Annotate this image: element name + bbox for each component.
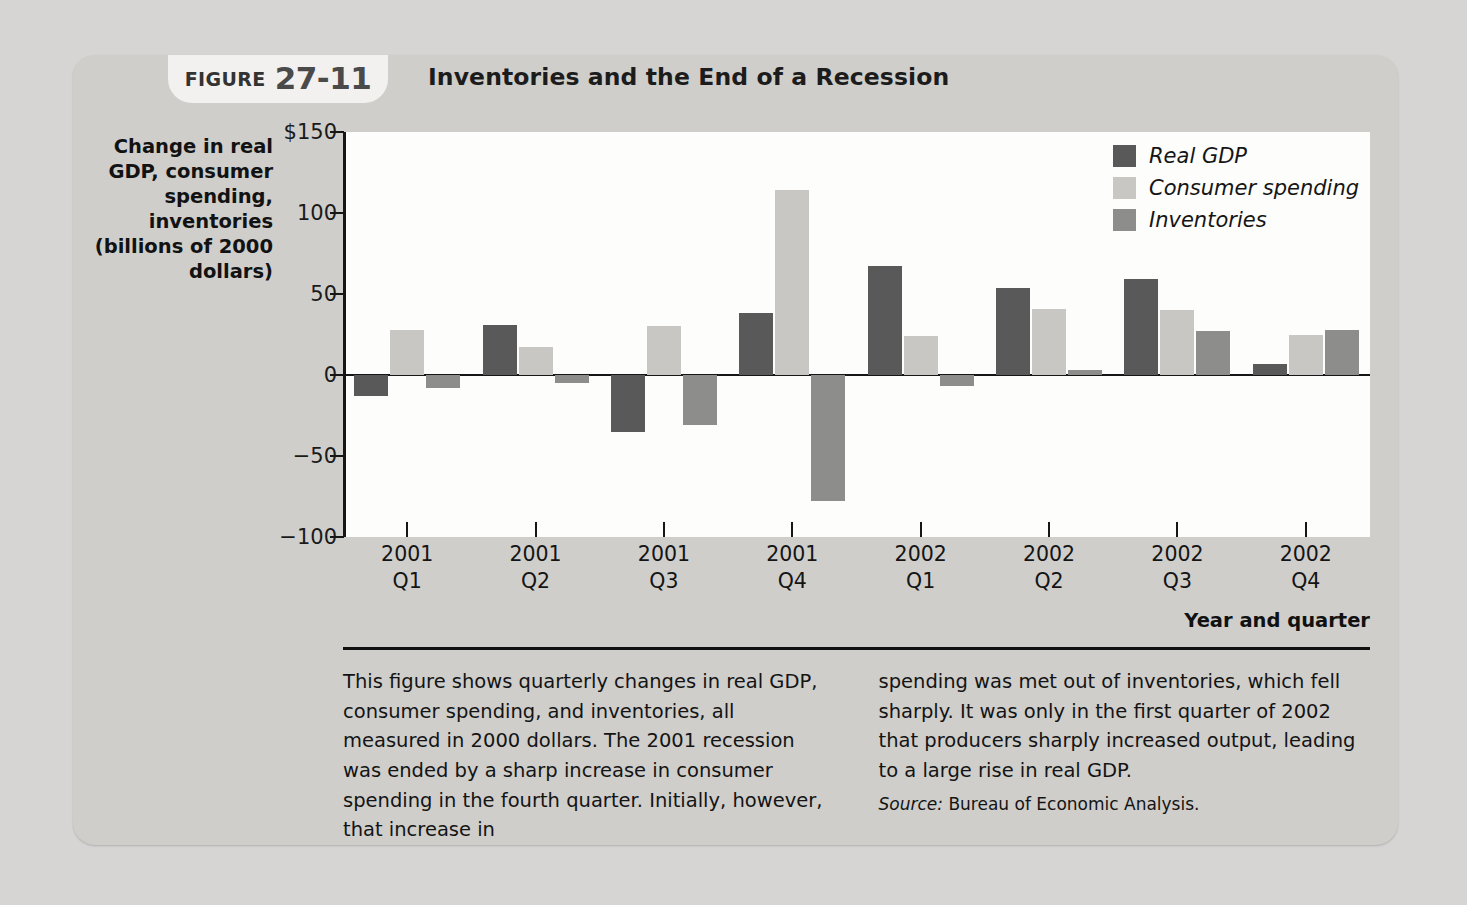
caption-column-left: This figure shows quarterly changes in r… (343, 667, 835, 847)
x-axis-label: 2002Q1 (866, 541, 976, 595)
bar-consumer-spending-2001-q3 (647, 326, 681, 375)
x-axis-tick-labels: 2001Q12001Q22001Q32001Q42002Q12002Q22002… (343, 541, 1370, 603)
legend-swatch-icon (1113, 209, 1136, 231)
bar-real-gdp-2002-q2 (996, 288, 1030, 375)
bar-real-gdp-2001-q1 (354, 375, 388, 396)
chart-legend: Real GDPConsumer spendingInventories (1113, 144, 1359, 232)
bar-inventories-2002-q3 (1196, 331, 1230, 375)
x-axis-label-quarter: Q4 (1251, 568, 1361, 595)
bar-consumer-spending-2001-q2 (519, 347, 553, 375)
x-axis-tick (1048, 522, 1050, 537)
x-axis-label: 2002Q3 (1122, 541, 1232, 595)
bar-real-gdp-2001-q2 (483, 325, 517, 375)
legend-label: Inventories (1149, 208, 1267, 232)
x-axis-label-quarter: Q3 (1122, 568, 1232, 595)
x-axis-label-quarter: Q3 (609, 568, 719, 595)
x-axis-label-year: 2002 (866, 541, 976, 568)
y-axis-tick (330, 374, 344, 376)
y-axis-tick-labels: −100−50050100$150 (267, 132, 337, 537)
x-axis-tick (1176, 522, 1178, 537)
bar-inventories-2002-q4 (1325, 330, 1359, 375)
caption-divider (343, 647, 1370, 650)
plot-area: Real GDPConsumer spendingInventories (343, 132, 1370, 537)
figure-title: Inventories and the End of a Recession (428, 63, 949, 91)
x-axis-label-quarter: Q1 (352, 568, 462, 595)
bar-consumer-spending-2001-q4 (775, 190, 809, 375)
x-axis-title: Year and quarter (1184, 609, 1370, 632)
x-axis-label-year: 2001 (352, 541, 462, 568)
x-axis-tick (791, 522, 793, 537)
x-axis-label: 2002Q4 (1251, 541, 1361, 595)
caption-column-right: spending was met out of inventories, whi… (879, 667, 1371, 847)
x-axis-tick (663, 522, 665, 537)
legend-item-consumer-spending: Consumer spending (1113, 176, 1359, 200)
legend-label: Consumer spending (1149, 176, 1359, 200)
x-axis-label: 2001Q3 (609, 541, 719, 595)
x-axis-label-year: 2002 (994, 541, 1104, 568)
x-axis-tick (920, 522, 922, 537)
x-axis-label-year: 2001 (609, 541, 719, 568)
bar-consumer-spending-2001-q1 (390, 330, 424, 375)
x-axis-label-year: 2002 (1251, 541, 1361, 568)
source-text: Bureau of Economic Analysis. (948, 794, 1199, 814)
bar-consumer-spending-2002-q4 (1289, 335, 1323, 376)
bar-real-gdp-2001-q4 (739, 313, 773, 375)
x-axis-label: 2001Q1 (352, 541, 462, 595)
caption-block: This figure shows quarterly changes in r… (343, 647, 1370, 847)
y-axis-title: Change in real GDP, consumer spending, i… (91, 135, 273, 285)
x-axis-label-quarter: Q1 (866, 568, 976, 595)
source-line: Source: Bureau of Economic Analysis. (879, 792, 1371, 818)
figure-card: Figure 27-11 Inventories and the End of … (73, 55, 1398, 845)
x-axis-label-year: 2002 (1122, 541, 1232, 568)
y-axis-line (343, 132, 346, 537)
bar-inventories-2002-q1 (940, 375, 974, 386)
y-axis-tick (330, 536, 344, 538)
figure-header: Figure 27-11 Inventories and the End of … (73, 55, 1398, 117)
bar-real-gdp-2002-q4 (1253, 364, 1287, 375)
figure-number-tab: Figure 27-11 (168, 55, 388, 103)
figure-tab-number: 27-11 (275, 60, 372, 96)
x-axis-label-quarter: Q2 (481, 568, 591, 595)
y-axis-tick (330, 455, 344, 457)
legend-item-inventories: Inventories (1113, 208, 1359, 232)
y-axis-tick (330, 131, 344, 133)
caption-text-left: This figure shows quarterly changes in r… (343, 667, 835, 845)
bar-real-gdp-2001-q3 (611, 375, 645, 432)
x-axis-label-quarter: Q2 (994, 568, 1104, 595)
x-axis-tick (1305, 522, 1307, 537)
legend-item-real-gdp: Real GDP (1113, 144, 1359, 168)
bar-consumer-spending-2002-q3 (1160, 310, 1194, 375)
x-axis-label: 2001Q2 (481, 541, 591, 595)
bar-inventories-2001-q3 (683, 375, 717, 425)
page-background: Figure 27-11 Inventories and the End of … (0, 0, 1467, 905)
caption-columns: This figure shows quarterly changes in r… (343, 667, 1370, 847)
bar-consumer-spending-2002-q2 (1032, 309, 1066, 375)
y-axis-tick (330, 293, 344, 295)
y-axis-tick-label: −100 (279, 525, 337, 549)
bar-inventories-2001-q1 (426, 375, 460, 388)
x-axis-label-year: 2001 (737, 541, 847, 568)
x-axis-label: 2002Q2 (994, 541, 1104, 595)
bar-inventories-2001-q4 (811, 375, 845, 501)
x-axis-tick (535, 522, 537, 537)
bar-inventories-2001-q2 (555, 375, 589, 383)
y-axis-tick (330, 212, 344, 214)
bar-inventories-2002-q2 (1068, 370, 1102, 375)
legend-swatch-icon (1113, 145, 1136, 167)
legend-label: Real GDP (1149, 144, 1247, 168)
chart-zone: Change in real GDP, consumer spending, i… (73, 117, 1398, 647)
x-axis-tick (406, 522, 408, 537)
figure-tab-label: Figure (185, 68, 266, 90)
bar-real-gdp-2002-q1 (868, 266, 902, 375)
x-axis-label: 2001Q4 (737, 541, 847, 595)
y-axis-tick-label: $150 (284, 120, 337, 144)
x-axis-label-year: 2001 (481, 541, 591, 568)
caption-text-right: spending was met out of inventories, whi… (879, 667, 1371, 786)
x-axis-label-quarter: Q4 (737, 568, 847, 595)
source-label: Source: (879, 794, 944, 814)
bar-real-gdp-2002-q3 (1124, 279, 1158, 375)
bar-consumer-spending-2002-q1 (904, 336, 938, 375)
legend-swatch-icon (1113, 177, 1136, 199)
